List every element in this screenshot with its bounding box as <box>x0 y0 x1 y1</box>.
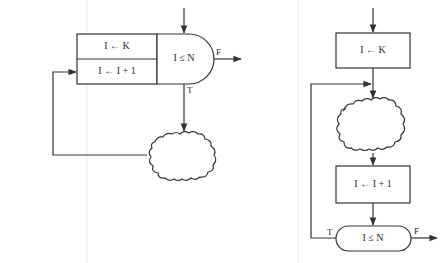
flowchart-canvas: I ← K I ← I + 1 I ≤ N F T I ← K I ← <box>0 0 447 263</box>
left-true-label: T <box>187 85 193 95</box>
right-loop-body-cloud <box>337 98 405 151</box>
right-true-label: T <box>327 227 333 237</box>
left-increment-label: I ← I + 1 <box>98 65 135 76</box>
left-decision-label: I ≤ N <box>173 52 194 63</box>
left-loop-body-cloud <box>149 132 216 181</box>
right-flowchart: I ← K I ← I + 1 I ≤ N T F <box>311 8 437 251</box>
left-flowchart: I ← K I ← I + 1 I ≤ N F T <box>53 8 241 181</box>
left-init-label: I ← K <box>104 40 130 51</box>
right-increment-label: I ← I + 1 <box>354 178 391 189</box>
left-false-label: F <box>216 47 221 57</box>
right-false-label: F <box>414 226 419 236</box>
right-decision-label: I ≤ N <box>362 232 383 243</box>
right-init-label: I ← K <box>360 44 386 55</box>
